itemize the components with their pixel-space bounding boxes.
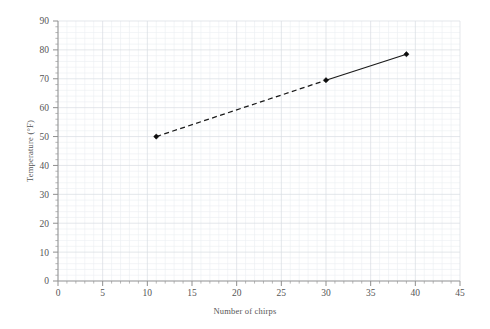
y-tick-label: 60 [40,103,50,113]
y-tick-label: 10 [40,248,50,258]
y-tick-label: 20 [40,219,50,229]
y-tick-label: 40 [40,161,50,171]
y-axis-title: Temperature (°F) [25,120,35,182]
x-tick-label: 15 [187,288,197,298]
y-tick-label: 70 [40,74,50,84]
chart-background [0,0,490,329]
x-tick-label: 5 [100,288,105,298]
x-tick-label: 25 [277,288,287,298]
y-tick-label: 30 [40,190,50,200]
y-tick-label: 0 [44,276,49,286]
x-tick-label: 30 [321,288,331,298]
y-tick-label: 80 [40,45,50,55]
x-tick-label: 40 [411,288,421,298]
x-tick-label: 45 [455,288,465,298]
chart-canvas: 051015202530354045 0102030405060708090 N… [0,0,490,329]
y-tick-label: 50 [40,132,50,142]
x-tick-label: 10 [143,288,153,298]
x-tick-label: 20 [232,288,242,298]
y-tick-label: 90 [40,16,50,26]
x-tick-label: 35 [366,288,376,298]
chart-figure: 051015202530354045 0102030405060708090 N… [0,0,490,329]
x-tick-label: 0 [56,288,61,298]
x-axis-title: Number of chirps [213,306,276,316]
